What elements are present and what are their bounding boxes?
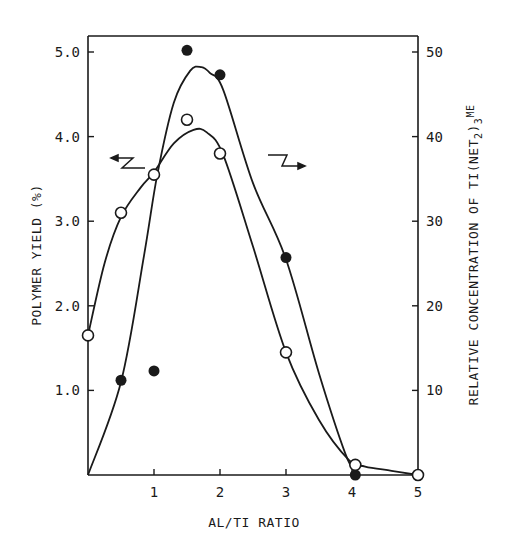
y-axis-left-label: POLYMER YIELD (%): [29, 184, 44, 326]
x-tick-label: 5: [414, 484, 422, 500]
x-tick-label: 4: [348, 484, 356, 500]
filled-point: [215, 69, 226, 80]
x-tick-label: 3: [282, 484, 290, 500]
open-point: [215, 148, 226, 159]
y-right-tick-label: 50: [426, 44, 443, 60]
x-tick-label: 1: [150, 484, 158, 500]
left-arrow-icon: [111, 155, 145, 168]
filled-point: [116, 375, 127, 386]
open-point: [83, 330, 94, 341]
yield-data-points: [116, 45, 361, 481]
open-point: [116, 207, 127, 218]
y-left-tick-label: 3.0: [55, 213, 80, 229]
open-point: [281, 347, 292, 358]
filled-point: [281, 252, 292, 263]
y-right-tick-label: 10: [426, 382, 443, 398]
y-right-tick-label: 40: [426, 129, 443, 145]
y-axis-right-label: RELATIVE CONCENTRATION OF TI(NET2)3ME: [465, 105, 484, 406]
concentration-data-points: [83, 114, 424, 480]
open-point: [350, 459, 361, 470]
filled-point: [149, 365, 160, 376]
y-right-tick-label: 30: [426, 213, 443, 229]
tick-labels: 123451.02.03.04.05.01020304050: [55, 44, 443, 500]
filled-point: [182, 45, 193, 56]
y-right-tick-label: 20: [426, 298, 443, 314]
y-left-tick-label: 1.0: [55, 382, 80, 398]
filled-point: [350, 470, 361, 481]
x-axis-label: AL/TI RATIO: [208, 515, 300, 530]
right-arrow-icon: [268, 155, 305, 169]
y-left-tick-label: 2.0: [55, 298, 80, 314]
open-point: [182, 114, 193, 125]
plot-frame: [88, 36, 418, 475]
x-tick-label: 2: [216, 484, 224, 500]
y-left-tick-label: 4.0: [55, 129, 80, 145]
open-point: [149, 169, 160, 180]
y-left-tick-label: 5.0: [55, 44, 80, 60]
open-point: [413, 470, 424, 481]
chart-canvas: 123451.02.03.04.05.01020304050 AL/TI RAT…: [0, 0, 506, 552]
axis-ticks: [88, 52, 418, 475]
